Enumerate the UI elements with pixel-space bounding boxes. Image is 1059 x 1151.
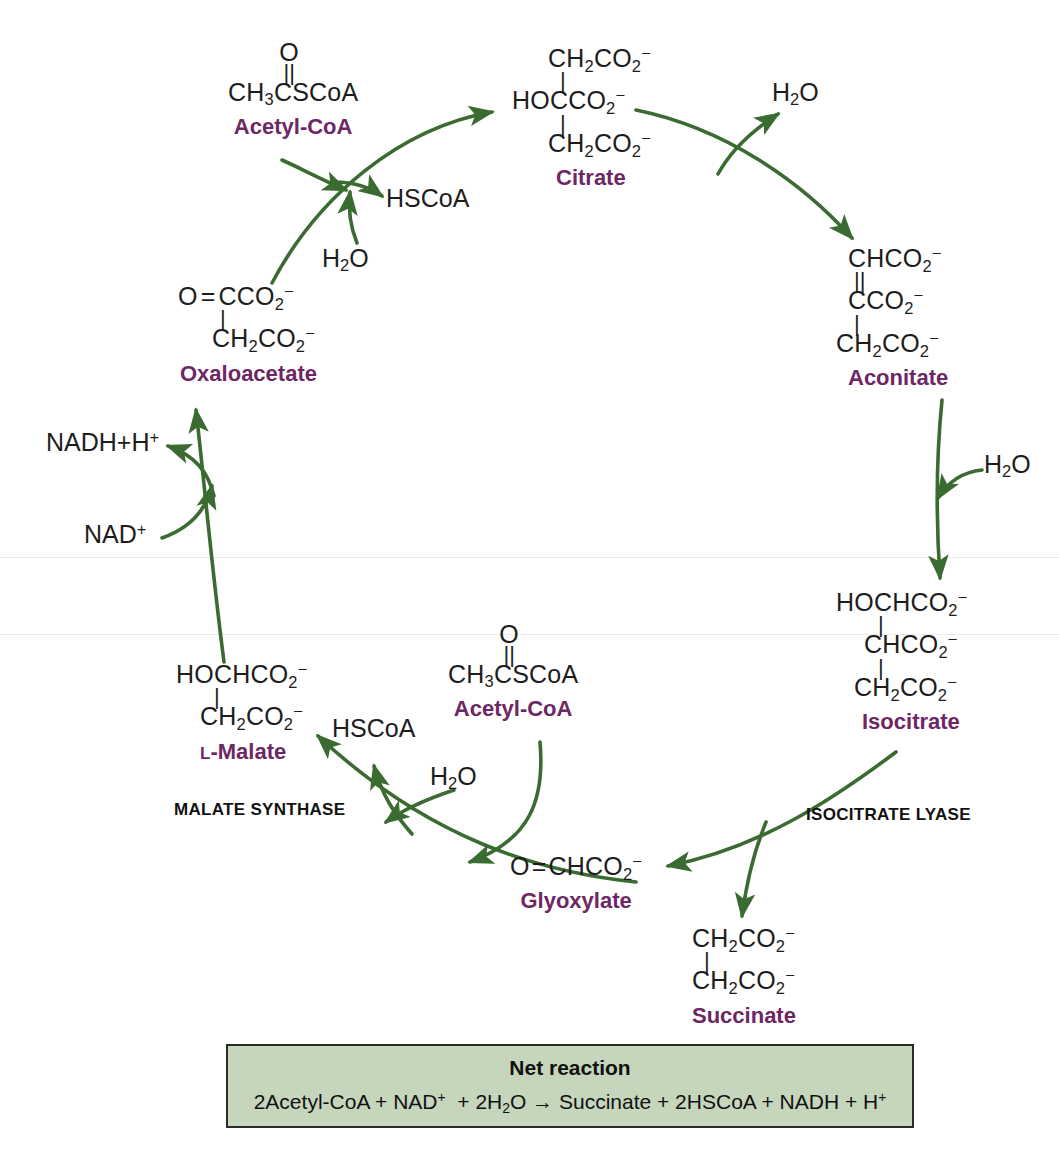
aconitate-formula: CHCO2− || CCO2− | CH2CO2− (848, 244, 948, 360)
malate-line-2: CH2CO2− (200, 702, 308, 733)
malate-formula: HOCHCO2− | CH2CO2− (176, 660, 308, 734)
acetyl-coa-bottom-label: Acetyl-CoA (448, 696, 578, 722)
acetyl-coa-top-formula: O || CH3CSCoA (228, 38, 358, 109)
metabolite-acetyl-coa-bottom: O || CH3CSCoA Acetyl-CoA (448, 620, 578, 722)
glyoxylate-label: Glyoxylate (510, 888, 642, 914)
aconitate-bond-1: || (854, 275, 948, 286)
arrow-acetylcoa-in-top (282, 160, 346, 190)
arrow-water-in-top (349, 192, 357, 243)
isocitrate-bond-2: | (878, 662, 968, 673)
cofactor-hscoa-top: HSCoA (386, 184, 469, 213)
oxaloacetate-line-1: O=CCO2− (178, 282, 317, 313)
enzyme-isocitrate-lyase: ISOCITRATE LYASE (806, 805, 971, 825)
isocitrate-line-3: CH2CO2− (854, 673, 968, 704)
cofactor-water-aconitate-in: H2O (984, 450, 1031, 481)
metabolite-isocitrate: HOCHCO2− | CHCO2− | CH2CO2− Isocitrate (836, 588, 968, 735)
arrow-water-in-bottom (386, 790, 454, 822)
metabolite-malate: HOCHCO2− | CH2CO2− L-Malate (176, 660, 308, 765)
arrow-water-out-citrate (718, 114, 778, 174)
oxaloacetate-label: Oxaloacetate (180, 361, 317, 387)
isocitrate-label: Isocitrate (862, 709, 968, 735)
acetyl-coa-bottom-double-bond: || (440, 649, 578, 660)
malate-label: L-Malate (200, 739, 308, 765)
oxaloacetate-bond-1: | (220, 313, 317, 324)
cofactor-water-citrate-out: H2O (772, 78, 819, 109)
arrow-nadh-out (168, 446, 214, 496)
malate-line-1: HOCHCO2− (176, 660, 308, 691)
metabolite-glyoxylate: O=CHCO2− Glyoxylate (510, 852, 642, 914)
arrow-acetylcoa-in-bottom (470, 742, 541, 862)
cofactor-nad-plus: NAD+ (84, 520, 146, 549)
acetyl-coa-top-label: Acetyl-CoA (228, 114, 358, 140)
succinate-bond-1: | (704, 955, 796, 966)
acetyl-coa-bottom-chain: CH3CSCoA (448, 660, 578, 691)
isocitrate-line-1: HOCHCO2− (836, 588, 968, 619)
arrow-nad-in (162, 486, 212, 538)
malate-label-text: -Malate (210, 739, 286, 764)
scan-artifact-line-upper (0, 557, 1059, 558)
aconitate-label: Aconitate (848, 365, 948, 391)
arrow-hscoa-out-top (334, 182, 382, 196)
aconitate-bond-2: | (854, 318, 948, 329)
metabolite-acetyl-coa-top: O || CH3CSCoA Acetyl-CoA (228, 38, 358, 140)
succinate-label: Succinate (692, 1003, 796, 1029)
metabolite-oxaloacetate: O=CCO2− | CH2CO2− Oxaloacetate (178, 282, 317, 387)
glyoxylate-cycle-diagram: O || CH3CSCoA Acetyl-CoA CH2CO2− | HOCCO… (0, 0, 1059, 1151)
acetyl-coa-top-chain: CH3CSCoA (228, 78, 358, 109)
succinate-line-2: CH2CO2− (692, 966, 796, 997)
citrate-bond-2: | (560, 118, 651, 129)
isocitrate-formula: HOCHCO2− | CHCO2− | CH2CO2− (836, 588, 968, 704)
arrow-malate-to-oxaloacetate (196, 410, 224, 662)
arrow-water-in-aconitate (938, 470, 982, 498)
arrow-aconitate-to-isocitrate (937, 400, 942, 578)
metabolite-succinate: CH2CO2− | CH2CO2− Succinate (692, 924, 796, 1029)
citrate-formula: CH2CO2− | HOCCO2− | CH2CO2− (512, 44, 651, 160)
cofactor-water-top-in: H2O (322, 244, 369, 275)
acetyl-coa-bottom-formula: O || CH3CSCoA (448, 620, 578, 691)
oxaloacetate-line-2: CH2CO2− (212, 324, 317, 355)
metabolite-citrate: CH2CO2− | HOCCO2− | CH2CO2− Citrate (512, 44, 651, 191)
metabolite-aconitate: CHCO2− || CCO2− | CH2CO2− Aconitate (848, 244, 948, 391)
citrate-label: Citrate (556, 165, 651, 191)
net-reaction-box: Net reaction 2Acetyl-CoA + NAD+ + 2H2O →… (226, 1044, 914, 1128)
citrate-line-3: CH2CO2− (548, 129, 651, 160)
enzyme-malate-synthase: MALATE SYNTHASE (174, 800, 345, 820)
cofactor-hscoa-bottom: HSCoA (332, 714, 415, 743)
arrow-citrate-to-aconitate (636, 110, 852, 238)
malate-label-stereo-prefix: L (200, 744, 210, 763)
isocitrate-bond-1: | (878, 619, 968, 630)
oxaloacetate-formula: O=CCO2− | CH2CO2− (178, 282, 317, 356)
glyoxylate-line-1: O=CHCO2− (510, 852, 642, 883)
succinate-formula: CH2CO2− | CH2CO2− (692, 924, 796, 998)
aconitate-line-3: CH2CO2− (836, 329, 948, 360)
malate-bond-1: | (214, 691, 308, 702)
cofactor-nadh-h: NADH+H+ (46, 428, 159, 457)
glyoxylate-formula: O=CHCO2− (510, 852, 642, 883)
citrate-line-2: HOCCO2− (512, 86, 651, 117)
arrow-hscoa-out-bottom (374, 766, 412, 834)
aconitate-line-2: CCO2− (848, 286, 948, 317)
acetyl-coa-top-double-bond: || (220, 67, 358, 78)
citrate-bond-1: | (560, 75, 651, 86)
net-reaction-title: Net reaction (509, 1056, 630, 1080)
arrow-to-succinate (742, 822, 766, 916)
net-reaction-equation: 2Acetyl-CoA + NAD+ + 2H2O → Succinate + … (254, 1089, 887, 1116)
cofactor-water-bottom-in: H2O (430, 762, 477, 793)
